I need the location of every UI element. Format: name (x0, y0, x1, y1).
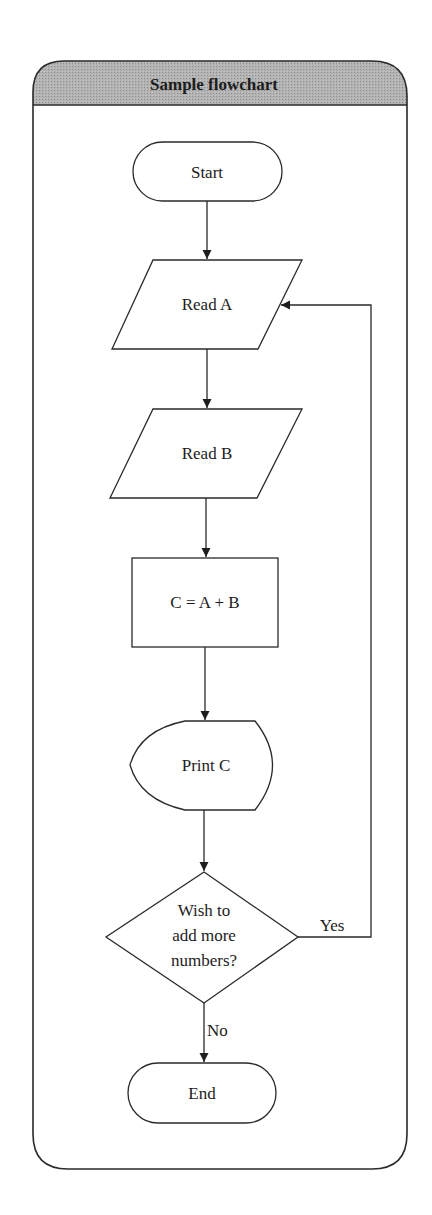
edge-decision-yes-loop (281, 305, 371, 937)
node-label-line-1: Wish to (178, 901, 231, 920)
edge-label-no: No (207, 1021, 228, 1040)
flowchart-canvas: Sample flowchart Start Read A Read B C =… (0, 0, 432, 1215)
node-label-line-2: add more (172, 926, 236, 945)
node-label: Read B (182, 444, 233, 463)
node-print-c: Print C (130, 721, 273, 810)
node-compute: C = A + B (132, 558, 278, 647)
node-label: Start (191, 163, 223, 182)
edge-label-yes: Yes (320, 916, 345, 935)
node-start: Start (133, 142, 282, 201)
node-end: End (128, 1063, 276, 1123)
node-read-a: Read A (112, 260, 302, 349)
node-label: End (188, 1084, 216, 1103)
node-label: Read A (182, 295, 233, 314)
node-label: Print C (182, 756, 231, 775)
flowchart-title: Sample flowchart (150, 75, 278, 94)
node-read-b: Read B (110, 409, 302, 498)
node-label-line-3: numbers? (171, 951, 237, 970)
node-label: C = A + B (170, 593, 239, 612)
node-decision: Wish to add more numbers? (106, 872, 298, 1003)
